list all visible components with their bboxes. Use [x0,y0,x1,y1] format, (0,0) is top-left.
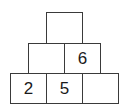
pyramid-cell-bottom-left: 2 [10,73,47,104]
pyramid-cell-bottom-right [82,73,119,104]
pyramid-cell-top [46,12,83,44]
pyramid-cell-bottom-middle: 5 [46,73,83,104]
pyramid-cell-middle-right: 6 [64,43,101,74]
number-pyramid: 6 2 5 [0,0,123,112]
pyramid-cell-middle-left [28,43,65,74]
